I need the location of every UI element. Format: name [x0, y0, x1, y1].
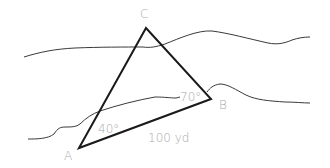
- vertex-label-c: C: [140, 7, 148, 21]
- angle-label-a: 40°: [98, 122, 119, 136]
- triangulation-diagram: C A B 40° 70° 100 yd: [0, 0, 330, 168]
- vertex-label-a: A: [64, 149, 72, 163]
- vertex-label-b: B: [219, 98, 227, 112]
- upper-river-bank: [24, 31, 310, 57]
- angle-label-b: 70°: [180, 90, 201, 104]
- side-length-ab: 100 yd: [148, 131, 189, 145]
